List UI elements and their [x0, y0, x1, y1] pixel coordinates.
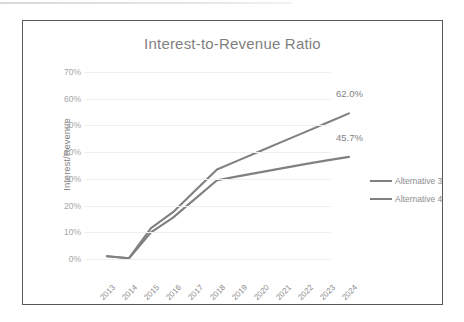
gridline: [85, 125, 331, 126]
gridline: [85, 232, 331, 233]
legend-item-alternative-4[interactable]: Alternative 4: [370, 194, 442, 204]
legend-item-alternative-3[interactable]: Alternative 3: [370, 176, 442, 186]
legend-label: Alternative 3: [395, 176, 442, 186]
y-axis-tick-label: 50%: [55, 120, 81, 130]
y-axis-tick-label: 30%: [55, 174, 81, 184]
y-axis-tick-label: 20%: [55, 201, 81, 211]
y-axis-tick-label: 0%: [55, 254, 81, 264]
gridline: [85, 72, 331, 73]
top-divider: [0, 2, 292, 4]
y-axis-tick-label: 40%: [55, 147, 81, 157]
gridline: [85, 259, 331, 260]
y-axis-tick-label: 10%: [55, 227, 81, 237]
gridline: [85, 152, 331, 153]
gridline: [85, 179, 331, 180]
y-axis-tick-label: 60%: [55, 94, 81, 104]
legend-line-icon: [370, 180, 392, 183]
y-axis-tick-label: 70%: [55, 67, 81, 77]
chart-title: Interest-to-Revenue Ratio: [23, 35, 442, 52]
legend-label: Alternative 4: [395, 194, 442, 204]
data-label: 45.7%: [336, 131, 363, 142]
chart-legend: Alternative 3 Alternative 4: [370, 176, 442, 204]
data-label: 62.0%: [336, 88, 363, 99]
gridline: [85, 99, 331, 100]
legend-line-icon: [370, 198, 392, 201]
chart-frame: Interest-to-Revenue Ratio Interest/Reven…: [22, 20, 443, 305]
gridline: [85, 206, 331, 207]
